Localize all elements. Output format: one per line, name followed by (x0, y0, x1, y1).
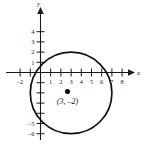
center-point-marker (65, 89, 70, 94)
x-tick-label--2: –2 (16, 78, 23, 85)
y-tick-label-4: 4 (31, 28, 35, 35)
y-tick-label-2: 2 (31, 48, 34, 55)
x-tick-label-8: 8 (120, 78, 123, 85)
x-tick-label-2: 2 (59, 78, 62, 85)
y-axis-label: y (36, 0, 41, 8)
x-axis-label: x (136, 69, 141, 77)
y-tick-label--5: –5 (27, 120, 34, 127)
coordinate-plane: –2 1 2 3 4 5 6 7 8 1 2 3 4 –5 –6 x y (3,… (0, 0, 143, 146)
x-tick-label-4: 4 (80, 78, 84, 85)
circle-graph-figure: –2 1 2 3 4 5 6 7 8 1 2 3 4 –5 –6 x y (3,… (0, 0, 143, 146)
x-tick-label-7: 7 (110, 78, 114, 85)
x-axis (6, 69, 135, 76)
x-tick-label-1: 1 (49, 78, 52, 85)
y-tick-label-1: 1 (31, 59, 34, 66)
center-point-label: (3, –2) (57, 97, 79, 106)
y-tick-label--6: –6 (27, 130, 34, 137)
x-tick-label-6: 6 (100, 78, 103, 85)
x-tick-label-3: 3 (69, 78, 72, 85)
x-tick-label-5: 5 (90, 78, 93, 85)
y-tick-label-3: 3 (31, 38, 34, 45)
